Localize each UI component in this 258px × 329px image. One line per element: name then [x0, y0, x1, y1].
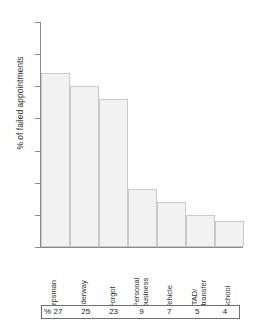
y-tick-15 [35, 151, 40, 152]
category-label-text: TAD/transfer [191, 280, 208, 305]
y-tick-25 [35, 86, 40, 87]
y-tick-30 [35, 54, 40, 55]
bar [41, 73, 70, 247]
y-tick-10 [35, 183, 40, 184]
category-label-text: Personalbusiness [133, 278, 150, 308]
plot-area: 35302520151050 [40, 22, 243, 247]
bar [215, 221, 244, 247]
category-label: School [214, 249, 243, 301]
table-cell-value: 23 [100, 306, 128, 318]
bar [70, 86, 99, 247]
y-tick-0 [35, 247, 40, 248]
x-axis-category-labels: CorpsmanUnderwayForgotPersonalbusinessVe… [40, 249, 243, 301]
category-label: Corpsman [40, 249, 69, 301]
y-tick-35 [35, 22, 40, 23]
bar-series [41, 22, 243, 247]
y-axis-title: % of failed appointments [15, 37, 29, 169]
table-cell-value: 27 [44, 306, 72, 318]
table-cell-value: 5 [183, 306, 211, 318]
table-cell-value: 25 [72, 306, 100, 318]
bar [157, 202, 186, 247]
category-label: Underway [69, 249, 98, 301]
y-tick-20 [35, 118, 40, 119]
bar [99, 99, 128, 247]
table-cell-value: 7 [155, 306, 183, 318]
table-cell-value: 9 [128, 306, 156, 318]
category-label: Vehicle [156, 249, 185, 301]
data-value-table: %2725239754 [41, 305, 240, 319]
bar [186, 215, 215, 247]
x-axis-line [40, 247, 243, 248]
category-label: TAD/transfer [185, 249, 214, 301]
table-cell-value: 4 [211, 306, 239, 318]
y-tick-5 [35, 215, 40, 216]
bar [128, 189, 157, 247]
category-label: Forgot [98, 249, 127, 301]
category-label: Personalbusiness [127, 249, 156, 301]
bar-chart: % of failed appointments 35302520151050 … [0, 0, 258, 329]
